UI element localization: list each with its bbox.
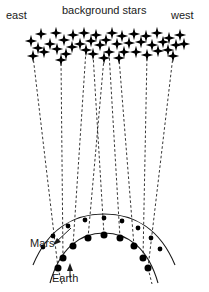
star-icon bbox=[152, 45, 164, 57]
mars-dot bbox=[158, 247, 163, 252]
earth-dot bbox=[85, 235, 92, 242]
star-icon bbox=[66, 41, 78, 53]
sight-line-6 bbox=[109, 52, 120, 238]
earth-dot bbox=[60, 255, 67, 262]
earth-dot bbox=[70, 243, 77, 250]
sight-line-4 bbox=[88, 58, 104, 238]
earth-position-dots bbox=[55, 232, 152, 272]
earth-dot bbox=[131, 243, 138, 250]
background-star-field bbox=[25, 27, 190, 66]
star-icon bbox=[74, 38, 86, 50]
earth-arrow-head bbox=[67, 263, 73, 271]
star-icon bbox=[25, 35, 37, 47]
star-icon bbox=[67, 29, 79, 41]
star-icon bbox=[50, 27, 62, 39]
star-icon bbox=[35, 28, 47, 40]
star-icon bbox=[151, 27, 163, 39]
earth-dot bbox=[140, 255, 147, 262]
earth-dot bbox=[101, 232, 108, 239]
star-icon bbox=[78, 27, 90, 39]
label-background-stars: background stars bbox=[62, 5, 146, 16]
label-east: east bbox=[6, 10, 27, 21]
star-icon bbox=[141, 49, 153, 61]
sight-line-7 bbox=[119, 58, 134, 246]
star-icon bbox=[123, 37, 135, 49]
earth-dot bbox=[117, 235, 124, 242]
mars-dot bbox=[102, 216, 107, 221]
star-icon bbox=[128, 28, 140, 40]
earth-dot bbox=[145, 265, 152, 272]
star-icon bbox=[58, 34, 70, 46]
sight-line-2 bbox=[61, 60, 63, 258]
mars-dot bbox=[83, 218, 88, 223]
mars-pointer-arrow bbox=[53, 228, 71, 245]
label-west: west bbox=[171, 10, 194, 21]
label-mars: Mars bbox=[30, 238, 54, 249]
star-icon bbox=[130, 46, 142, 58]
star-icon bbox=[106, 27, 118, 39]
label-earth: Earth bbox=[52, 273, 78, 284]
mars-dot bbox=[66, 224, 71, 229]
star-icon bbox=[146, 39, 158, 51]
mars-dot bbox=[149, 236, 154, 241]
mars-dot bbox=[120, 219, 125, 224]
sight-line-8 bbox=[143, 55, 147, 258]
sight-line-5 bbox=[93, 54, 104, 235]
mars-dot bbox=[136, 226, 141, 231]
earth-dot bbox=[55, 265, 62, 272]
retrograde-motion-figure: east background stars west Mars Earth bbox=[0, 0, 209, 292]
